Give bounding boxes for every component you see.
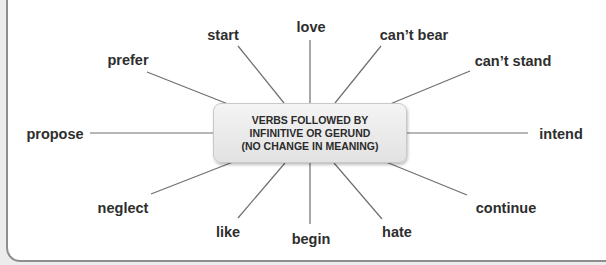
center-line-3: (NO CHANGE IN MEANING) xyxy=(241,140,378,153)
center-line-1: VERBS FOLLOWED BY xyxy=(241,114,378,127)
center-concept-box: VERBS FOLLOWED BY INFINITIVE OR GERUND (… xyxy=(213,103,407,163)
connector-cant-bear xyxy=(335,46,381,103)
connector-start xyxy=(238,46,284,103)
verb-cant-stand: can’t stand xyxy=(475,53,552,69)
verb-love: love xyxy=(296,19,325,35)
verb-start: start xyxy=(207,27,238,43)
verb-continue: continue xyxy=(476,200,536,216)
verb-hate: hate xyxy=(382,224,412,240)
center-line-2: INFINITIVE OR GERUND xyxy=(241,127,378,140)
verb-intend: intend xyxy=(539,126,583,142)
connector-like xyxy=(238,163,285,218)
verb-like: like xyxy=(216,224,240,240)
connector-neglect xyxy=(151,162,233,194)
verb-begin: begin xyxy=(292,231,331,247)
verb-cant-bear: can’t bear xyxy=(380,27,449,43)
connector-prefer xyxy=(147,72,228,104)
connector-continue xyxy=(386,162,467,195)
verb-propose: propose xyxy=(26,126,83,142)
connector-cant-stand xyxy=(390,71,470,104)
verb-prefer: prefer xyxy=(107,52,148,68)
center-concept-text: VERBS FOLLOWED BY INFINITIVE OR GERUND (… xyxy=(241,114,378,153)
connector-hate xyxy=(334,163,382,219)
verb-neglect: neglect xyxy=(98,200,149,216)
